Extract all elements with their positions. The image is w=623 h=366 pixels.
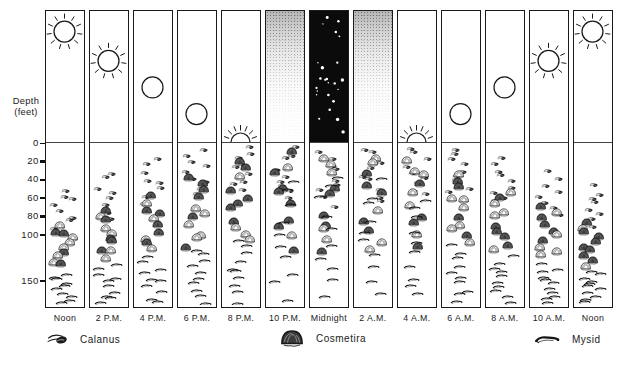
cosmetira-icon [225, 186, 237, 195]
calanus-icon [142, 161, 151, 167]
cosmetira-icon [414, 179, 426, 188]
column-2-a-m-7 [353, 10, 393, 308]
cosmetira-icon [282, 163, 294, 172]
legend-item-mysid: Mysid [534, 333, 601, 345]
mysid-icon [507, 253, 520, 259]
mysid-icon [364, 219, 377, 225]
mysid-icon [453, 279, 466, 285]
cosmetira-icon [286, 231, 298, 240]
cosmetira-icon [55, 259, 67, 268]
calanus-icon [447, 156, 456, 162]
calanus-legend-label: Calanus [80, 334, 120, 345]
mysid-icon [277, 220, 290, 226]
sun-disc-icon [486, 11, 524, 142]
mysid-icon [314, 256, 327, 262]
column-10-a-m-11 [529, 10, 569, 308]
mysid-icon [154, 267, 167, 273]
mysid-icon [489, 288, 502, 294]
twilight-sky [266, 11, 304, 142]
mysid-icon [594, 286, 607, 292]
mysid-icon [578, 299, 591, 305]
mysid-icon [451, 255, 464, 261]
mysid-icon [154, 278, 167, 284]
cosmetira-icon [153, 228, 165, 237]
mysid-icon [138, 270, 151, 276]
calanus-icon [360, 147, 369, 153]
water-column [530, 142, 568, 305]
calanus-icon [61, 188, 70, 194]
mysid-icon [232, 238, 245, 244]
mysid-icon [367, 264, 380, 270]
mysid-icon [231, 301, 244, 305]
plankton-vertical-migration-figure: Depth (feet) 020406080100150 Noon2 P.M.4… [0, 0, 623, 366]
depth-axis-unit: (feet) [6, 107, 46, 118]
mysid-icon [403, 264, 416, 270]
mysid-icon [55, 300, 68, 305]
mysid-icon [318, 294, 331, 300]
mysid-icon [102, 283, 115, 289]
mysid-icon [199, 301, 212, 305]
mysid-icon [450, 299, 463, 305]
cosmetira-icon [225, 203, 237, 212]
cosmetira-icon [280, 329, 304, 348]
cosmetira-icon [407, 188, 419, 197]
legend-item-cosmetira: Cosmetira [280, 329, 366, 348]
sun-icon [574, 11, 612, 142]
calanus-icon [49, 202, 58, 208]
mysid-icon [240, 250, 253, 256]
water-column [178, 142, 216, 305]
mysid-icon [155, 289, 168, 295]
mysid-icon [325, 243, 338, 249]
mysid-icon [187, 280, 200, 286]
calanus-icon [156, 185, 165, 191]
calanus-icon [281, 155, 290, 161]
mysid-icon [326, 266, 339, 272]
column-4-p-m-2 [133, 10, 173, 308]
calanus-icon [490, 161, 499, 167]
water-column [134, 142, 172, 305]
mysid-icon [151, 299, 164, 305]
calanus-icon [140, 170, 149, 176]
calanus-icon [65, 217, 74, 223]
column-8-p-m-4 [221, 10, 261, 308]
cosmetira-icon [453, 182, 465, 191]
calanus-icon [101, 174, 110, 180]
mysid-icon [198, 258, 211, 264]
mysid-icon [268, 279, 281, 285]
depth-tick-label: 40 [0, 173, 39, 184]
cosmetira-icon [489, 199, 501, 208]
cosmetira-icon [499, 232, 511, 241]
mysid-icon [326, 277, 339, 283]
calanus-icon [46, 332, 68, 346]
cosmetira-icon [361, 169, 373, 178]
mysid-icon [325, 226, 338, 232]
mysid-icon [551, 267, 564, 273]
horizon-sun-icon [222, 11, 260, 142]
depth-tick-label: 150 [0, 275, 39, 286]
mysid-icon [358, 230, 371, 236]
night-sky-stars [310, 11, 348, 142]
cosmetira-icon [191, 233, 203, 242]
mysid-icon [547, 280, 560, 286]
mysid-icon [368, 252, 381, 258]
cosmetira-icon [489, 211, 501, 220]
column-8-a-m-10 [485, 10, 525, 308]
calanus-icon [554, 176, 563, 182]
cosmetira-icon [376, 238, 388, 247]
mysid-icon [286, 272, 299, 278]
water-column [442, 142, 480, 305]
cosmetira-icon [535, 202, 547, 211]
cosmetira-icon [446, 224, 458, 233]
mysid-icon [365, 279, 378, 285]
depth-tick-label: 100 [0, 229, 39, 240]
depth-tick-label: 80 [0, 210, 39, 221]
calanus-icon [246, 151, 255, 157]
column-4-a-m-8 [397, 10, 437, 308]
mysid-icon [281, 187, 294, 193]
mysid-icon [313, 194, 326, 200]
calanus-icon [554, 189, 563, 195]
mysid-icon [229, 268, 242, 274]
mysid-icon [535, 261, 548, 267]
mysid-icon [232, 275, 245, 281]
water-column [266, 142, 304, 305]
